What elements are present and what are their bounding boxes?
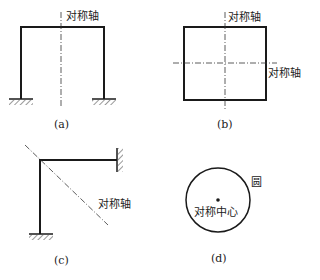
fixed-support-ground [29, 234, 53, 240]
axis-label-c: 对称轴 [98, 197, 131, 211]
fixed-support-right [92, 99, 116, 105]
fixed-support-left [9, 99, 33, 105]
center-label: 对称中心 [194, 205, 238, 219]
fixed-support-wall [117, 148, 123, 172]
caption-c: (c) [54, 254, 69, 267]
axis-label-b-right: 对称轴 [268, 66, 301, 80]
figure-a: 对称轴 (a) [9, 9, 116, 131]
axis-label-a: 对称轴 [66, 9, 99, 23]
center-point [216, 198, 220, 202]
caption-d: (d) [211, 252, 227, 265]
axis-label-b-top: 对称轴 [228, 10, 261, 24]
figure-d: 圆 对称中心 (d) [186, 168, 262, 265]
circle-label: 圆 [251, 176, 262, 189]
figure-b: 对称轴 对称轴 (b) [173, 10, 301, 131]
symmetry-axis-c [25, 145, 108, 225]
frame-a [21, 27, 104, 99]
diagram-canvas: 对称轴 (a) 对称轴 对称轴 (b) 对称轴 (c) 圆 对称中心 (d) [0, 0, 320, 280]
caption-b: (b) [217, 118, 233, 131]
caption-a: (a) [54, 118, 69, 131]
figure-c: 对称轴 (c) [25, 145, 131, 267]
